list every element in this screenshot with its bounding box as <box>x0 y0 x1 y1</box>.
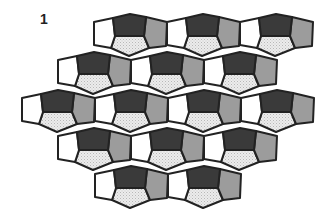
pentagon-white <box>95 94 116 124</box>
tile-unit <box>204 52 277 94</box>
pentagon-gray <box>145 169 168 200</box>
pentagon-light <box>221 74 259 94</box>
pentagon-white <box>58 56 79 86</box>
pentagon-light <box>185 112 223 132</box>
tile-unit <box>168 166 241 208</box>
pentagon-light <box>258 112 296 132</box>
pentagon-gray <box>254 55 277 86</box>
pentagon-white <box>204 56 225 86</box>
pentagon-gray <box>217 17 240 48</box>
pentagon-dark <box>186 14 219 36</box>
pentagon-white <box>95 170 116 200</box>
pentagon-light <box>185 188 223 208</box>
pentagon-white <box>168 170 189 200</box>
pentagon-white <box>167 18 188 48</box>
tile-unit <box>94 14 167 56</box>
pentagon-gray <box>72 93 95 124</box>
pentagon-light <box>112 188 150 208</box>
pentagon-gray <box>108 55 131 86</box>
pentagon-light <box>112 112 150 132</box>
pentagon-white <box>22 94 43 124</box>
pentagon-dark <box>41 90 74 112</box>
pentagon-tiling <box>0 0 335 220</box>
pentagon-white <box>168 94 189 124</box>
pentagon-light <box>148 74 186 94</box>
pentagon-dark <box>113 14 146 36</box>
pentagon-gray <box>144 17 167 48</box>
tile-unit <box>168 90 241 132</box>
pentagon-dark <box>77 128 110 150</box>
pentagon-white <box>58 132 79 162</box>
pentagon-light <box>75 74 113 94</box>
pentagon-white <box>240 18 261 48</box>
tile-unit <box>167 14 240 56</box>
pentagon-white <box>204 132 225 162</box>
pentagon-dark <box>77 52 110 74</box>
tile-unit <box>95 166 168 208</box>
pentagon-white <box>241 94 262 124</box>
tile-unit <box>58 128 131 170</box>
pentagon-light <box>39 112 77 132</box>
pentagon-light <box>221 150 259 170</box>
pentagon-dark <box>187 166 220 188</box>
pentagon-dark <box>223 128 256 150</box>
tile-units <box>22 14 314 208</box>
pentagon-gray <box>181 55 204 86</box>
pentagon-gray <box>291 93 314 124</box>
pentagon-dark <box>150 52 183 74</box>
pentagon-white <box>94 18 115 48</box>
pentagon-gray <box>218 169 241 200</box>
tile-unit <box>241 90 314 132</box>
tile-unit <box>131 52 204 94</box>
tile-unit <box>22 90 95 132</box>
pentagon-gray <box>145 93 168 124</box>
pentagon-light <box>257 36 295 56</box>
pentagon-gray <box>254 131 277 162</box>
pentagon-light <box>111 36 149 56</box>
pentagon-gray <box>218 93 241 124</box>
pentagon-white <box>131 132 152 162</box>
pentagon-dark <box>259 14 292 36</box>
pentagon-white <box>131 56 152 86</box>
pentagon-dark <box>114 166 147 188</box>
tile-unit <box>204 128 277 170</box>
pentagon-light <box>75 150 113 170</box>
pentagon-dark <box>187 90 220 112</box>
pentagon-gray <box>108 131 131 162</box>
pentagon-light <box>184 36 222 56</box>
tile-unit <box>240 14 313 56</box>
pentagon-gray <box>290 17 313 48</box>
pentagon-gray <box>181 131 204 162</box>
pentagon-dark <box>260 90 293 112</box>
tile-unit <box>95 90 168 132</box>
pentagon-dark <box>150 128 183 150</box>
tile-unit <box>58 52 131 94</box>
tile-unit <box>131 128 204 170</box>
pentagon-light <box>148 150 186 170</box>
pentagon-dark <box>223 52 256 74</box>
pentagon-dark <box>114 90 147 112</box>
